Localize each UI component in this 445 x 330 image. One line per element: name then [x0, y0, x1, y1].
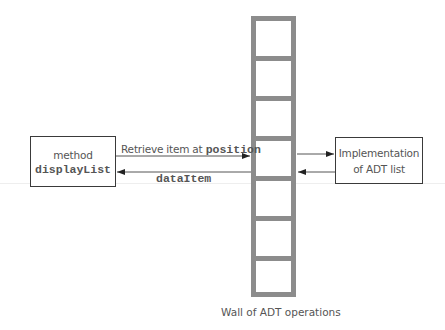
wall-caption: Wall of ADT operations [221, 306, 341, 318]
position-code: position [206, 143, 261, 156]
retrieve-item-label: Retrieve item at position [121, 138, 261, 157]
dataitem-label: dataItem [156, 172, 211, 186]
arrows-layer [0, 0, 445, 330]
retrieve-label-text: Retrieve item at [121, 143, 206, 155]
